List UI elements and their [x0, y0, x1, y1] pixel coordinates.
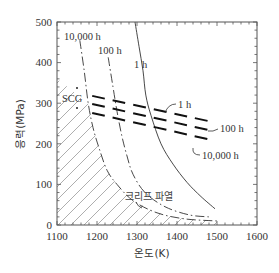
y-tick-100: 100 [36, 178, 53, 190]
y-axis-title: 응력(MPa) [14, 99, 26, 149]
x-tick-labels: 1100 1200 1300 1400 1500 1600 [46, 230, 268, 242]
label-scg: SCG [62, 93, 83, 104]
label-100h-dashed: 100 h [98, 45, 122, 56]
stress-temperature-chart: 0 100 200 300 400 500 1100 1200 1300 140… [0, 0, 279, 273]
x-axis-title: 온도(K) [134, 247, 169, 259]
x-tick-1200: 1200 [86, 230, 109, 242]
x-tick-1300: 1300 [126, 230, 149, 242]
series-4 [92, 104, 212, 131]
scg-dot-upper [76, 87, 78, 89]
x-tick-1100: 1100 [46, 230, 68, 242]
series-0 [135, 22, 215, 209]
label-10000h-dashed: 10,000 h [64, 31, 102, 42]
y-tick-500: 500 [36, 16, 53, 28]
y-tick-300: 300 [36, 97, 53, 109]
y-tick-labels: 0 100 200 300 400 500 [36, 16, 53, 231]
x-tick-1600: 1600 [246, 230, 269, 242]
x-tick-1400: 1400 [166, 230, 189, 242]
scg-dot-lower [76, 107, 78, 109]
label-100h-band: 100 h [220, 123, 244, 134]
label-1h-band: 1 h [178, 99, 192, 110]
label-1h-solid: 1 h [134, 59, 148, 70]
label-10000h-band: 10,000 h [202, 150, 240, 161]
y-tick-400: 400 [36, 56, 53, 68]
label-creep-rupture: 크리프 파열 [125, 191, 173, 202]
series-5 [92, 113, 212, 140]
y-tick-200: 200 [36, 138, 53, 150]
x-tick-1500: 1500 [206, 230, 229, 242]
